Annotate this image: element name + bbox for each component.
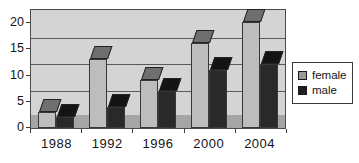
legend-item-male: male [298, 84, 348, 96]
y-axis-tick-label-0: 0 [0, 120, 24, 134]
legend-swatch-male-icon [298, 86, 307, 95]
bar-front-face-female-2004 [242, 22, 260, 128]
y-axis-tick-label-5: 5 [0, 94, 24, 108]
x-axis-tick [132, 129, 133, 133]
y-axis-tick-5 [26, 101, 30, 102]
y-axis-tick-0 [26, 127, 30, 128]
bar-front-face-male-2004 [260, 64, 278, 128]
legend-label-female: female [312, 69, 347, 81]
x-axis-label-1992: 1992 [82, 136, 133, 151]
bar-front-face-male-1992 [107, 107, 125, 128]
y-axis-tick-label-10: 10 [0, 68, 24, 82]
bar-male-2000 [209, 70, 227, 128]
x-axis-tick [286, 129, 287, 133]
bar-group-1988: 1988 [31, 10, 82, 128]
bar-front-face-female-1988 [38, 112, 56, 128]
bar-group-2004: 2004 [234, 10, 285, 128]
legend-label-male: male [312, 84, 337, 96]
bar-male-1988 [56, 117, 74, 128]
bar-male-2004 [260, 64, 278, 128]
bar-male-1992 [107, 107, 125, 128]
bar-female-2000 [191, 43, 209, 128]
x-axis-tick [81, 129, 82, 133]
y-axis-tick-15 [26, 48, 30, 49]
bar-top-face-male-2000 [210, 57, 232, 70]
x-axis-tick [184, 129, 185, 133]
plot-area: 19881992199620002004 [30, 9, 286, 129]
bar-front-face-male-2000 [209, 70, 227, 128]
bar-top-face-female-1992 [90, 46, 112, 59]
bar-group-1992: 1992 [82, 10, 133, 128]
y-axis-tick-10 [26, 75, 30, 76]
bar-front-face-female-1992 [89, 59, 107, 128]
chart-image: 19881992199620002004 05101520 femalemale [0, 0, 359, 163]
x-axis-label-1996: 1996 [133, 136, 184, 151]
bar-group-1996: 1996 [133, 10, 184, 128]
legend-item-female: female [298, 69, 348, 81]
x-axis-label-2004: 2004 [234, 136, 285, 151]
y-axis: 05101520 [0, 0, 30, 163]
y-axis-tick-label-20: 20 [0, 15, 24, 29]
bar-female-2004 [242, 22, 260, 128]
bar-female-1996 [140, 80, 158, 128]
bar-male-1996 [158, 91, 176, 128]
bar-top-face-female-2000 [192, 30, 214, 43]
bar-top-face-male-2004 [261, 51, 283, 64]
bar-front-face-male-1988 [56, 117, 74, 128]
x-axis-label-2000: 2000 [183, 136, 234, 151]
x-axis-tick [235, 129, 236, 133]
bar-top-face-male-1988 [57, 104, 79, 117]
bar-top-face-male-1996 [159, 78, 181, 91]
bar-front-face-female-1996 [140, 80, 158, 128]
bar-front-face-female-2000 [191, 43, 209, 128]
bar-group-2000: 2000 [183, 10, 234, 128]
bar-top-face-female-2004 [243, 9, 265, 22]
bar-female-1992 [89, 59, 107, 128]
bar-top-face-female-1996 [141, 67, 163, 80]
bar-female-1988 [38, 112, 56, 128]
bar-top-face-male-1992 [108, 94, 130, 107]
x-axis-tick [30, 129, 31, 133]
legend-swatch-female-icon [298, 71, 307, 80]
bar-front-face-male-1996 [158, 91, 176, 128]
legend: femalemale [292, 62, 353, 104]
bar-groups-container: 19881992199620002004 [31, 10, 285, 128]
y-axis-tick-label-15: 15 [0, 41, 24, 55]
y-axis-tick-20 [26, 22, 30, 23]
x-axis-label-1988: 1988 [31, 136, 82, 151]
